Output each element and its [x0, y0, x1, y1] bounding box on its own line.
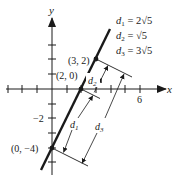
d1-label: d1 [70, 119, 79, 132]
legend-d2: d2 = √5 [116, 30, 147, 43]
legend-d1: d1 = 2√5 [116, 15, 152, 28]
y-tick-label-neg2: −2 [33, 113, 44, 124]
distance-legend: d1 = 2√5 d2 = √5 d3 = 3√5 [116, 15, 152, 58]
dimension-d1: d1 [64, 96, 94, 153]
y-axis-label: y [48, 4, 54, 16]
point-label-0-neg4: (0, −4) [11, 143, 38, 155]
legend-d3: d3 = 3√5 [116, 45, 152, 58]
d3-label: d3 [95, 121, 104, 134]
x-tick-label-6: 6 [137, 94, 142, 105]
distance-diagram: y x 6 −2 (3, 2) (2, 0) (0, −4) d2 d1 d3 … [0, 0, 175, 177]
x-axis-label: x [166, 83, 172, 95]
point-label-2-0: (2, 0) [56, 70, 78, 82]
point-label-3-2: (3, 2) [68, 55, 90, 67]
dimension-d3: d3 [82, 74, 124, 164]
